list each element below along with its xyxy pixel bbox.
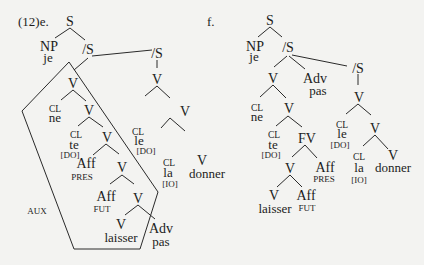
node-s: S xyxy=(266,13,274,28)
node-v: V xyxy=(370,121,380,136)
node-s-bar: /S xyxy=(82,42,94,57)
word-donner: donner xyxy=(189,166,226,181)
node-v: V xyxy=(152,72,162,87)
node-v: V xyxy=(68,76,78,91)
syntax-tree-diagram: (12)e. AUX S NP je /S V CL ne V CL te xyxy=(0,0,424,265)
node-s-bar: /S xyxy=(151,46,163,61)
node-s: S xyxy=(66,14,74,29)
word-la: la xyxy=(163,165,173,180)
tree-f: f. S NP je /S V Adv pas CL ne V CL te [D… xyxy=(207,13,412,216)
word-la: la xyxy=(354,160,364,175)
word-le: le xyxy=(337,126,347,141)
node-v: V xyxy=(354,90,364,105)
example-label-f: f. xyxy=(207,14,215,29)
word-laisser: laisser xyxy=(104,230,138,245)
node-v: V xyxy=(133,191,143,206)
word-ne: ne xyxy=(49,110,62,125)
case-do: [DO] xyxy=(137,146,156,156)
node-aff: Aff xyxy=(296,188,316,203)
node-v: V xyxy=(180,104,190,119)
case-do: [DO] xyxy=(262,150,281,160)
node-v: V xyxy=(268,71,278,86)
node-aff: Aff xyxy=(315,160,335,175)
node-v: V xyxy=(117,160,127,175)
word-je: je xyxy=(248,49,259,64)
word-pas: pas xyxy=(152,234,169,249)
word-donner: donner xyxy=(375,160,412,175)
node-v: V xyxy=(84,103,94,118)
node-v: V xyxy=(285,161,295,176)
aux-label: AUX xyxy=(27,206,47,216)
node-fv: FV xyxy=(298,131,316,146)
node-aff: Aff xyxy=(76,156,96,171)
word-pas: pas xyxy=(309,83,326,98)
feature-pres: PRES xyxy=(313,174,335,184)
word-je: je xyxy=(42,50,53,65)
case-do: [DO] xyxy=(331,140,350,150)
word-laisser: laisser xyxy=(258,201,292,216)
word-ne: ne xyxy=(251,109,264,124)
node-s-bar: /S xyxy=(282,40,294,55)
node-aff: Aff xyxy=(96,189,116,204)
node-v: V xyxy=(284,101,294,116)
node-v: V xyxy=(102,130,112,145)
feature-fut: FUT xyxy=(298,203,316,213)
case-io: [IO] xyxy=(162,179,178,189)
node-s-bar: /S xyxy=(352,61,364,76)
example-label-e: (12)e. xyxy=(18,14,49,29)
case-io: [IO] xyxy=(351,175,367,185)
tree-e: (12)e. AUX S NP je /S V CL ne V CL te xyxy=(18,14,226,249)
feature-fut: FUT xyxy=(93,204,111,214)
feature-pres: PRES xyxy=(71,172,93,182)
